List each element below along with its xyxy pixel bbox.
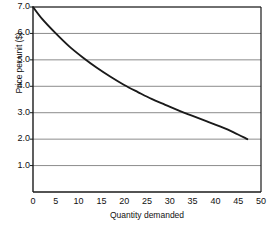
x-axis-tick-label: 35 [183,196,203,206]
x-axis-tick-label: 45 [228,196,248,206]
x-axis-tick-label: 10 [69,196,89,206]
x-axis-tick-label: 5 [46,196,66,206]
plot-area [0,0,269,229]
x-axis-tick-label: 25 [137,196,157,206]
x-axis-tick-label: 20 [114,196,134,206]
x-axis-tick-label: 30 [160,196,180,206]
x-axis-tick-labels: 05101520253035404550 [0,196,269,210]
x-axis-tick-label: 0 [23,196,43,206]
demand-curve-chart: Price per unit ($) 1.02.03.04.05.06.07.0… [0,0,269,229]
x-axis-tick-label: 40 [205,196,225,206]
demand-curve-line [33,7,247,139]
gridlines [33,7,261,166]
x-axis-title: Quantity demanded [33,210,261,220]
x-axis-tick-label: 50 [251,196,269,206]
x-axis-tick-label: 15 [91,196,111,206]
plot-frame [33,7,261,192]
